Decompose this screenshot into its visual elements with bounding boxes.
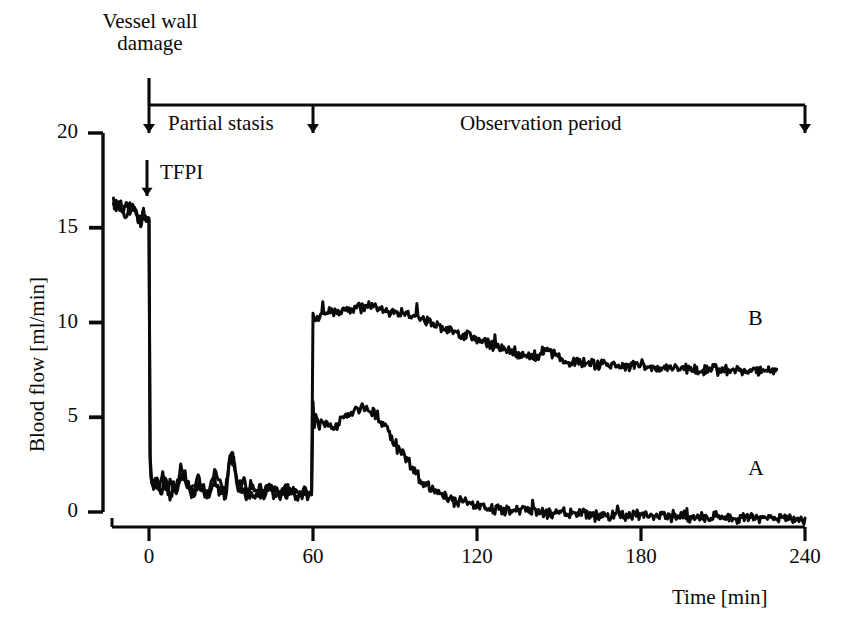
bracket-arrow-mid-head	[307, 124, 319, 133]
y-tick-label-5: 5	[40, 404, 78, 426]
y-tick-label-0: 0	[40, 499, 78, 521]
x-tick-label-60: 60	[288, 545, 338, 567]
blood-flow-chart	[0, 0, 844, 631]
annotation-vessel-line-1: damage	[100, 32, 200, 54]
y-tick-label-20: 20	[40, 120, 78, 142]
x-tick-label-0: 0	[124, 545, 174, 567]
annotation-tfpi: TFPI	[160, 161, 203, 183]
x-axis-title: Time [min]	[672, 586, 767, 608]
trace-b	[114, 200, 777, 497]
tfpi-arrow-head	[142, 188, 153, 196]
annotation-vessel-wall-damage: Vessel walldamage	[100, 10, 200, 54]
series-label-a: A	[748, 456, 764, 479]
bracket-arrow-start-head	[143, 124, 155, 133]
bracket-arrow-end-head	[799, 124, 811, 133]
figure-root: Vessel walldamage Partial stasis Observa…	[0, 0, 844, 631]
x-tick-label-180: 180	[616, 545, 666, 567]
annotation-partial-stasis: Partial stasis	[168, 112, 274, 134]
annotation-observation-period: Observation period	[460, 112, 622, 134]
x-tick-label-240: 240	[780, 545, 830, 567]
x-tick-label-120: 120	[452, 545, 502, 567]
y-tick-label-15: 15	[40, 215, 78, 237]
y-tick-label-10: 10	[40, 310, 78, 332]
series-label-b: B	[748, 306, 763, 329]
annotation-vessel-line-0: Vessel wall	[100, 10, 200, 32]
